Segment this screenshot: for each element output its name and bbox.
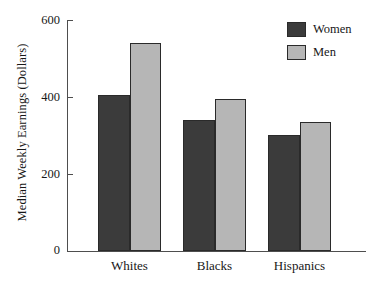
legend-label-men: Men (313, 45, 336, 60)
y-tick-mark-400 (67, 97, 73, 98)
legend-label-women: Women (313, 22, 352, 37)
bar-whites-women (98, 95, 130, 251)
x-axis-line (67, 251, 366, 252)
bar-blacks-men (215, 99, 247, 251)
bar-hispanics-women (268, 135, 300, 251)
bar-blacks-women (183, 120, 215, 251)
bar-whites-men (130, 43, 162, 251)
y-tick-mark-600 (67, 20, 73, 21)
legend-swatch-men-icon (287, 45, 306, 60)
bar-hispanics-men (300, 122, 332, 251)
y-axis-line (67, 20, 68, 252)
y-tick-mark-200 (67, 174, 73, 175)
y-tick-label-0: 0 (20, 244, 60, 257)
y-axis-title: Median Weekly Earnings (Dollars) (15, 13, 30, 253)
x-axis-label-hispanics: Hispanics (250, 258, 350, 274)
y-tick-label-600: 600 (20, 14, 60, 27)
y-tick-label-200: 200 (20, 168, 60, 181)
bar-chart: Median Weekly Earnings (Dollars) 600 400… (0, 0, 381, 293)
legend-swatch-women-icon (287, 22, 306, 37)
y-tick-mark-0 (67, 251, 73, 252)
y-tick-label-400: 400 (20, 91, 60, 104)
